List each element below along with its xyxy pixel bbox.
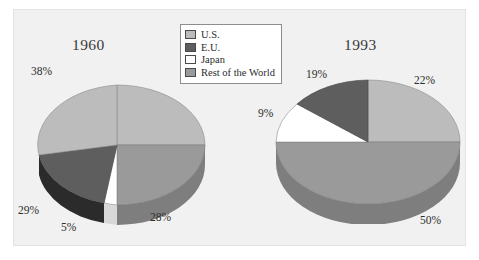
pie-1960-label-us: 38% xyxy=(31,65,52,77)
legend-item-eu: E.U. xyxy=(185,41,275,53)
legend-item-japan: Japan xyxy=(185,54,275,66)
legend-label-japan: Japan xyxy=(201,54,225,65)
pie-1960-label-eu: 29% xyxy=(18,204,39,216)
pie-1993-label-us: 22% xyxy=(414,74,435,86)
pie-1993-slice-us xyxy=(368,80,460,142)
legend-swatch-us-icon xyxy=(185,30,196,39)
chart-title-1960: 1960 xyxy=(72,36,105,54)
chart-title-1993: 1993 xyxy=(344,36,377,54)
pie-1993-label-japan: 9% xyxy=(258,107,273,119)
pie-1993-label-eu: 19% xyxy=(306,68,327,80)
legend-label-us: U.S. xyxy=(201,29,220,40)
pie-1960-slice-us xyxy=(117,85,205,145)
legend-swatch-japan-icon xyxy=(185,55,196,64)
legend-label-row: Rest of the World xyxy=(201,67,275,78)
pie-1960-slice-us-b xyxy=(38,85,117,155)
pie-1993-svg xyxy=(275,66,461,224)
pie-1960-label-row: 28% xyxy=(150,211,171,223)
pie-chart-1960 xyxy=(28,73,206,225)
pie-1993-label-row: 50% xyxy=(420,214,441,226)
legend-swatch-row-icon xyxy=(185,68,196,77)
legend-swatch-eu-icon xyxy=(185,43,196,52)
pie-1960-side-japan xyxy=(104,203,117,225)
pie-1960-svg xyxy=(28,73,206,225)
legend-label-eu: E.U. xyxy=(201,42,220,53)
pie-chart-1993 xyxy=(275,66,461,224)
chart-legend: U.S. E.U. Japan Rest of the World xyxy=(180,24,282,84)
legend-item-row: Rest of the World xyxy=(185,66,275,78)
legend-item-us: U.S. xyxy=(185,29,275,41)
pie-1960-label-japan: 5% xyxy=(61,221,76,233)
figure-root: 1960 xyxy=(0,0,479,260)
